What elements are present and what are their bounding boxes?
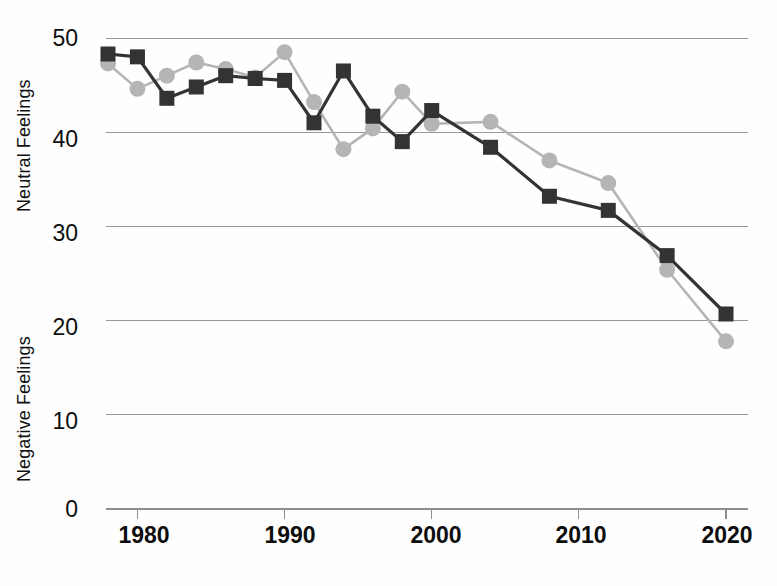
data-point-dark-square-series-1986	[218, 68, 233, 83]
data-point-light-gray-circle-series-1980	[129, 81, 145, 97]
data-point-light-gray-circle-series-1998	[394, 84, 410, 100]
data-point-dark-square-series-2012	[601, 203, 616, 218]
data-point-dark-square-series-1996	[365, 109, 380, 124]
data-point-dark-square-series-2008	[542, 189, 557, 204]
data-point-light-gray-circle-series-1990	[277, 44, 293, 60]
data-point-dark-square-series-2000	[424, 103, 439, 118]
chart-plot-area	[0, 0, 777, 586]
data-point-dark-square-series-1978	[101, 47, 116, 62]
data-point-dark-square-series-1994	[336, 63, 351, 78]
data-point-light-gray-circle-series-2008	[541, 152, 557, 168]
data-point-light-gray-circle-series-2020	[718, 333, 734, 349]
data-point-dark-square-series-1984	[189, 79, 204, 94]
data-point-light-gray-circle-series-1994	[335, 141, 351, 157]
chart-figure: Neutral Feelings Negative Feelings 50 40…	[0, 0, 777, 586]
data-point-dark-square-series-1998	[395, 134, 410, 149]
data-point-light-gray-circle-series-2016	[659, 262, 675, 278]
data-point-dark-square-series-1988	[248, 71, 263, 86]
data-point-dark-square-series-2004	[483, 140, 498, 155]
tickmarks-group	[137, 509, 726, 519]
data-point-dark-square-series-1990	[277, 73, 292, 88]
data-point-light-gray-circle-series-2004	[483, 114, 499, 130]
series-line-light-gray-circle-series	[108, 52, 726, 341]
data-point-light-gray-circle-series-1992	[306, 94, 322, 110]
data-point-dark-square-series-2020	[719, 307, 734, 322]
series-dark-squares	[101, 47, 734, 322]
data-point-dark-square-series-1980	[130, 49, 145, 64]
data-point-light-gray-circle-series-1984	[188, 54, 204, 70]
data-point-dark-square-series-1992	[307, 115, 322, 130]
data-point-light-gray-circle-series-2012	[600, 175, 616, 191]
data-point-dark-square-series-2016	[660, 248, 675, 263]
data-point-dark-square-series-1982	[159, 91, 174, 106]
data-point-light-gray-circle-series-1982	[159, 68, 175, 84]
